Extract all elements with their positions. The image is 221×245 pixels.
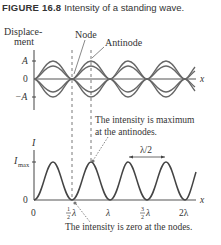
antinode-label: Antinode xyxy=(105,37,143,48)
annotation-max-line1: The intensity is maximum xyxy=(95,115,195,125)
svg-text:2: 2 xyxy=(67,214,70,220)
svg-text:3: 3 xyxy=(141,206,144,212)
tick-I-zero: 0 xyxy=(23,195,28,205)
half-wavelength-label: λ/2 xyxy=(140,145,152,155)
x-label-top: x xyxy=(199,74,205,84)
displacement-plot: Displace- ment Node Antinode A 0 −A x xyxy=(4,26,205,110)
displacement-label-2: ment xyxy=(14,36,34,47)
annotation-max-line2: at the antinodes. xyxy=(95,127,157,137)
annotation-max-leader xyxy=(94,137,108,159)
x-tick-0: 0 xyxy=(31,208,36,218)
x-tick-2lambda: 2λ xyxy=(179,208,189,218)
svg-text:λ: λ xyxy=(145,208,150,218)
x-tick-three-half-lambda: 3 2 λ xyxy=(140,206,150,220)
tick-zero: 0 xyxy=(23,74,28,84)
x-tick-half-lambda: 1 2 λ xyxy=(66,206,76,220)
intensity-plot: I I max 0 x λ/2 0 1 2 λ λ 3 2 λ 2λ xyxy=(13,137,205,232)
svg-text:2: 2 xyxy=(141,214,144,220)
tick-A: A xyxy=(21,56,28,66)
x-tick-lambda: λ xyxy=(105,208,110,218)
standing-wave-diagram: Displace- ment Node Antinode A 0 −A x Th… xyxy=(0,0,221,245)
x-label-bottom: x xyxy=(199,195,205,205)
tick-minus-A: −A xyxy=(15,92,27,102)
annotation-zero-leader xyxy=(76,204,90,222)
antinode-leader xyxy=(92,47,104,58)
svg-text:1: 1 xyxy=(67,206,70,212)
tick-Imax-sub: max xyxy=(18,161,30,168)
intensity-y-label: I xyxy=(31,137,36,148)
annotation-zero: The intensity is zero at the nodes. xyxy=(65,222,192,232)
node-label: Node xyxy=(75,29,97,40)
svg-text:λ: λ xyxy=(71,208,76,218)
intensity-curve xyxy=(34,162,196,200)
